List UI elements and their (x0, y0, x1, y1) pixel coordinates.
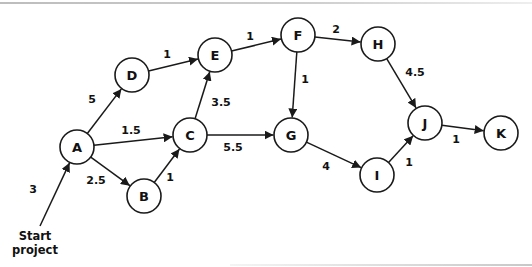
edge-duration-label: 4 (322, 160, 330, 173)
edge-duration-label: 3.5 (211, 96, 231, 109)
edge-duration-label: 5.5 (223, 141, 243, 154)
edge-duration-label: 2 (332, 23, 340, 36)
node-c: C (173, 118, 207, 152)
node-label: J (422, 116, 428, 131)
start-arrow: 3 (29, 163, 69, 226)
arrow-line (232, 39, 281, 51)
arrow-line (94, 137, 173, 145)
node-label: I (375, 168, 380, 183)
edge-duration-label: 2.5 (86, 174, 106, 187)
node-i: I (360, 158, 394, 192)
edge-duration-label: 1 (405, 156, 413, 169)
node-label: G (286, 128, 297, 143)
arrow-line (315, 37, 361, 42)
edge-duration-label: 1 (301, 73, 309, 86)
node-k: K (484, 116, 518, 150)
edge-a-c: 1.5 (94, 124, 173, 145)
start-label-line1: Start (19, 229, 52, 243)
arrow-line (40, 163, 70, 226)
edge-duration-label: 4.5 (405, 66, 425, 79)
node-label: H (373, 37, 384, 52)
edge-duration-label: 1 (166, 171, 174, 184)
node-label: K (496, 126, 507, 141)
edge-g-i: 4 (306, 142, 361, 173)
node-label: F (294, 28, 303, 43)
nodes-layer: ABCDEFGHIJK (60, 18, 518, 213)
arrow-line (306, 142, 361, 167)
node-label: E (211, 48, 220, 63)
edge-duration-label: 1 (246, 30, 254, 43)
node-b: B (127, 179, 161, 213)
activity-network-diagram: 51.52.5113.55.51214.54113 ABCDEFGHIJK St… (0, 0, 532, 267)
edge-d-e: 1 (149, 48, 198, 71)
start-duration-label: 3 (29, 183, 37, 196)
node-label: A (72, 140, 82, 155)
edge-duration-label: 1.5 (121, 124, 141, 137)
arrow-line (149, 59, 198, 71)
edge-i-j: 1 (389, 136, 414, 169)
start-group: Start project (12, 229, 58, 257)
node-f: F (281, 18, 315, 52)
edge-e-f: 1 (232, 30, 281, 51)
arrow-line (292, 52, 297, 118)
edge-duration-label: 1 (163, 48, 171, 61)
edge-h-j: 4.5 (387, 59, 425, 108)
edge-b-c: 1 (154, 149, 179, 184)
edge-c-e: 3.5 (195, 72, 231, 119)
edge-a-d: 5 (87, 89, 121, 134)
node-d: D (115, 58, 149, 92)
arrow-line (442, 125, 484, 130)
start-label-line2: project (12, 243, 58, 257)
node-label: B (139, 189, 149, 204)
edge-a-b: 2.5 (86, 157, 130, 187)
edge-f-h: 2 (315, 23, 361, 42)
edge-f-g: 1 (292, 52, 309, 118)
node-label: C (185, 128, 195, 143)
node-e: E (198, 38, 232, 72)
node-g: G (274, 118, 308, 152)
node-j: J (408, 106, 442, 140)
edge-duration-label: 5 (88, 93, 96, 106)
node-a: A (60, 130, 94, 164)
arrow-line (195, 72, 210, 119)
node-h: H (361, 27, 395, 61)
node-label: D (127, 68, 138, 83)
edge-j-k: 1 (442, 125, 484, 146)
edge-duration-label: 1 (452, 133, 460, 146)
edge-c-g: 5.5 (207, 135, 274, 154)
